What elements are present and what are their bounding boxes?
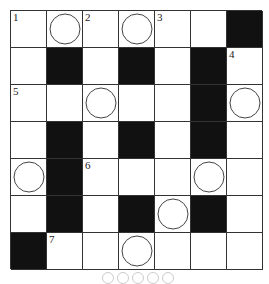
- black-cell: [191, 85, 227, 122]
- clue-number: 6: [85, 159, 91, 171]
- answer-blank: [132, 272, 144, 284]
- black-cell: [47, 122, 83, 159]
- grid-cell[interactable]: [119, 159, 155, 196]
- grid-cell[interactable]: [191, 11, 227, 48]
- grid-cell[interactable]: 6: [83, 159, 119, 196]
- grid-cell[interactable]: 5: [11, 85, 47, 122]
- circle-marker-icon: [229, 88, 260, 119]
- grid-cell[interactable]: [155, 48, 191, 85]
- grid-cell[interactable]: [155, 196, 191, 233]
- clue-number: 5: [13, 85, 19, 97]
- answer-blanks: [102, 272, 174, 284]
- grid-cell[interactable]: [227, 159, 263, 196]
- black-cell: [119, 122, 155, 159]
- black-cell: [191, 48, 227, 85]
- grid-cell[interactable]: 1: [11, 11, 47, 48]
- black-cell: [191, 196, 227, 233]
- clue-number: 2: [85, 11, 91, 23]
- grid-cell[interactable]: 7: [47, 233, 83, 270]
- grid-cell[interactable]: 4: [227, 48, 263, 85]
- grid-cell[interactable]: [11, 48, 47, 85]
- circle-marker-icon: [49, 14, 80, 45]
- black-cell: [11, 233, 47, 270]
- grid-cell[interactable]: [155, 159, 191, 196]
- grid-cell[interactable]: [47, 85, 83, 122]
- clue-number: 1: [13, 11, 19, 23]
- grid-cell[interactable]: [227, 122, 263, 159]
- circle-marker-icon: [157, 199, 188, 230]
- circle-marker-icon: [193, 162, 224, 193]
- grid-cell[interactable]: [119, 233, 155, 270]
- grid-cell[interactable]: [191, 233, 227, 270]
- grid-cell[interactable]: [155, 233, 191, 270]
- black-cell: [47, 48, 83, 85]
- clue-number: 7: [49, 233, 55, 245]
- grid-cell[interactable]: [227, 85, 263, 122]
- answer-blank: [102, 272, 114, 284]
- grid-cell[interactable]: [11, 159, 47, 196]
- grid-cell[interactable]: [155, 85, 191, 122]
- crossword-grid: 1234567: [10, 10, 262, 269]
- black-cell: [119, 48, 155, 85]
- grid-cell[interactable]: [119, 11, 155, 48]
- circle-marker-icon: [13, 162, 44, 193]
- answer-blank: [162, 272, 174, 284]
- circle-marker-icon: [85, 88, 116, 119]
- grid-cell[interactable]: [47, 11, 83, 48]
- black-cell: [47, 196, 83, 233]
- circle-marker-icon: [121, 14, 152, 45]
- answer-blank: [147, 272, 159, 284]
- grid-cell[interactable]: [227, 196, 263, 233]
- clue-number: 4: [229, 48, 235, 60]
- grid-cell[interactable]: [83, 48, 119, 85]
- black-cell: [227, 11, 263, 48]
- grid-cell[interactable]: [155, 122, 191, 159]
- grid-cell[interactable]: 3: [155, 11, 191, 48]
- black-cell: [191, 122, 227, 159]
- circle-marker-icon: [121, 236, 152, 267]
- grid-cell[interactable]: [227, 233, 263, 270]
- grid-cell[interactable]: [119, 85, 155, 122]
- grid-cell[interactable]: [83, 196, 119, 233]
- grid-cell[interactable]: [11, 196, 47, 233]
- grid-cell[interactable]: 2: [83, 11, 119, 48]
- clue-number: 3: [157, 11, 163, 23]
- grid-cell[interactable]: [83, 233, 119, 270]
- grid-cell[interactable]: [191, 159, 227, 196]
- grid-cell[interactable]: [83, 85, 119, 122]
- black-cell: [47, 159, 83, 196]
- grid-cell[interactable]: [11, 122, 47, 159]
- black-cell: [119, 196, 155, 233]
- answer-blank: [117, 272, 129, 284]
- grid-cell[interactable]: [83, 122, 119, 159]
